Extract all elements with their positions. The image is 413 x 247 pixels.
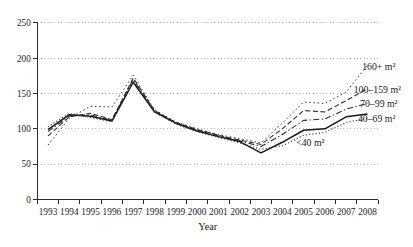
x-tick-label: 2008 <box>358 207 377 217</box>
y-tick-label: 250 <box>17 18 31 28</box>
x-tick-label: 2005 <box>294 207 313 217</box>
series-label: 70–99 m² <box>360 98 398 109</box>
series-label: 40–69 m² <box>358 113 396 124</box>
x-tick-label: 1997 <box>124 207 143 217</box>
x-tick-label: 1994 <box>60 207 79 217</box>
x-tick-label: 2004 <box>273 207 292 217</box>
y-tick-label: 50 <box>22 159 32 169</box>
x-tick-label: 2003 <box>252 207 271 217</box>
x-tick-label: 2001 <box>209 207 228 217</box>
y-tick-label: 100 <box>17 124 31 134</box>
x-tick-label: 1998 <box>145 207 164 217</box>
y-tick-label: 150 <box>17 89 31 99</box>
x-tick-label: 1993 <box>39 207 58 217</box>
x-tick-label: 2006 <box>316 207 335 217</box>
line-chart-svg: 0501001502002501993199419951996199719981… <box>0 0 413 247</box>
x-tick-label: 1999 <box>167 207 186 217</box>
x-tick-label: 2002 <box>230 207 249 217</box>
series-label: <40 m² <box>296 137 324 148</box>
x-tick-label: 2007 <box>337 207 356 217</box>
series-label: 100–159 m² <box>354 84 401 95</box>
x-tick-label: 2000 <box>188 207 207 217</box>
y-tick-label: 0 <box>26 195 31 205</box>
x-tick-label: 1995 <box>81 207 100 217</box>
y-tick-label: 200 <box>17 54 31 64</box>
x-axis-title: Year <box>198 221 217 232</box>
series-label: 160+ m² <box>362 61 395 72</box>
chart-figure: 0501001502002501993199419951996199719981… <box>0 0 413 247</box>
x-tick-label: 1996 <box>103 207 122 217</box>
